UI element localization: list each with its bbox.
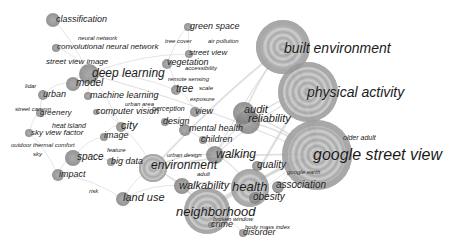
- label-older-adult[interactable]: older adult: [343, 134, 376, 141]
- label-perception[interactable]: perception: [152, 105, 185, 112]
- label-tree-cover[interactable]: tree cover: [165, 38, 192, 44]
- label-street-view-image[interactable]: street view image: [46, 58, 108, 66]
- label-remote-sensing[interactable]: remote sensing: [168, 76, 209, 82]
- label-heat-island[interactable]: heat island: [52, 122, 86, 129]
- label-association[interactable]: association: [276, 180, 326, 190]
- label-adult[interactable]: adult: [197, 171, 210, 177]
- label-google-earth[interactable]: google earth: [287, 169, 320, 175]
- label-google-street-view[interactable]: google street view: [313, 147, 442, 163]
- label-broken-window[interactable]: broken window: [213, 216, 253, 222]
- label-model[interactable]: model: [76, 78, 103, 88]
- label-sky[interactable]: sky: [33, 151, 42, 157]
- label-sky-view-factor[interactable]: sky view factor: [31, 129, 83, 137]
- label-computer-vision[interactable]: computer vision: [96, 107, 159, 116]
- label-impact[interactable]: impact: [59, 170, 86, 179]
- label-convolutional-neural-network[interactable]: convolutional neural network: [57, 43, 158, 51]
- label-urban-design[interactable]: urban design: [167, 152, 202, 158]
- label-urban[interactable]: urban: [43, 90, 66, 99]
- label-walkability[interactable]: walkability: [179, 180, 229, 191]
- label-big-data[interactable]: big data: [111, 157, 143, 166]
- label-street-canyon[interactable]: street canyon: [15, 106, 51, 112]
- label-physical-activity[interactable]: physical activity: [307, 85, 404, 99]
- label-design[interactable]: design: [163, 117, 190, 126]
- label-green-space[interactable]: green space: [190, 22, 240, 31]
- label-body-mass-index[interactable]: body mass index: [245, 224, 290, 230]
- label-image[interactable]: image: [104, 131, 129, 140]
- network-visualization: built environmentphysical activitygoogle…: [0, 0, 466, 248]
- label-children[interactable]: children: [201, 135, 233, 144]
- label-view[interactable]: view: [195, 107, 213, 116]
- label-urban-area[interactable]: urban area: [125, 101, 154, 107]
- label-space[interactable]: space: [77, 152, 104, 162]
- label-machine-learning[interactable]: machine learning: [90, 91, 159, 100]
- label-tree[interactable]: tree: [176, 84, 193, 94]
- label-exposure[interactable]: exposure: [190, 96, 215, 102]
- label-quality[interactable]: quality: [257, 160, 286, 170]
- label-audit[interactable]: audit: [244, 104, 268, 115]
- label-street-view[interactable]: street view: [189, 49, 227, 57]
- label-built-environment[interactable]: built environment: [284, 41, 391, 55]
- label-accessibility[interactable]: accessibility: [185, 65, 217, 71]
- label-scale[interactable]: scale: [199, 85, 213, 91]
- label-outdoor-thermal-comfort[interactable]: outdoor thermal comfort: [11, 142, 75, 148]
- label-classification[interactable]: classification: [56, 15, 107, 24]
- label-air-pollution[interactable]: air pollution: [208, 38, 239, 44]
- node-layer: built environmentphysical activitygoogle…: [0, 0, 466, 248]
- label-lidar[interactable]: lidar: [25, 83, 36, 89]
- label-mental-health[interactable]: mental health: [189, 124, 243, 133]
- label-feature[interactable]: feature: [107, 147, 126, 153]
- label-walking[interactable]: walking: [216, 148, 256, 160]
- label-risk[interactable]: risk: [89, 188, 98, 194]
- label-neural-network[interactable]: neural network: [78, 35, 117, 41]
- label-land-use[interactable]: land use: [123, 192, 165, 203]
- label-obesity[interactable]: obesity: [253, 192, 285, 202]
- label-environment[interactable]: environment: [151, 159, 217, 171]
